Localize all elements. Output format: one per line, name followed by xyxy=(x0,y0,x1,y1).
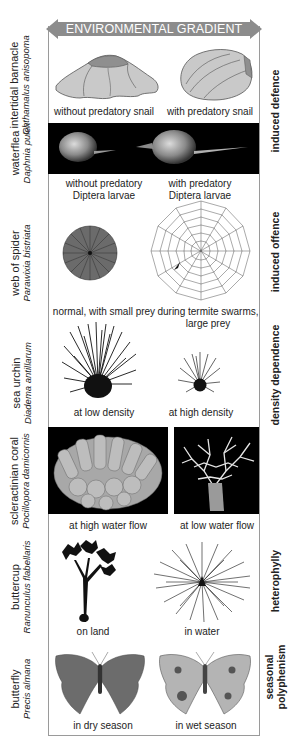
sea-urchin-high-density-illustration xyxy=(178,352,222,396)
caption-butterfly-dry-season: in dry season xyxy=(48,720,158,732)
category-heterophylly: heterophylly xyxy=(269,541,283,621)
coral-branching-illustration xyxy=(174,427,259,514)
common-name: butterfly xyxy=(9,659,21,719)
common-name: waterflea xyxy=(9,113,21,193)
common-name: web of spider xyxy=(9,213,21,313)
sea-urchin-low-density-illustration xyxy=(60,322,140,406)
caption-spider-large-prey: during termite swarms, large prey xyxy=(156,306,260,330)
barnacle-without-snail-illustration xyxy=(52,48,162,102)
caption-barnacle-with-snail: with predatory snail xyxy=(160,106,260,118)
scientific-name: Diadema antillarum xyxy=(22,338,34,428)
scientific-name: Daphnia pulex xyxy=(21,113,33,193)
scientific-name: Pocillopora damicornis xyxy=(20,428,32,534)
row-label-waterflea: waterflea Daphnia pulex xyxy=(9,113,35,193)
row-label-sea-urchin: sea urchin Diadema antillarum xyxy=(10,338,36,428)
caption-buttercup-land: on land xyxy=(48,626,138,638)
butterfly-wet-season-illustration xyxy=(156,646,254,718)
category-induced-defence: induced defence xyxy=(269,65,283,157)
scientific-name: Precis almana xyxy=(21,659,33,719)
caption-waterflea-without-predator: without predatory Diptera larvae xyxy=(48,178,160,202)
buttercup-land-illustration xyxy=(56,538,122,622)
caption-butterfly-wet-season: in wet season xyxy=(158,720,254,732)
common-name: buttercup xyxy=(9,535,21,639)
caption-coral-high-flow: at high water flow xyxy=(48,520,168,532)
scientific-name: Parawixia bistriata xyxy=(21,213,33,313)
caption-barnacle-without-snail: without predatory snail xyxy=(48,106,160,118)
common-name: sea urchin xyxy=(10,338,22,428)
row-label-coral: scleractinian coral Pocillopora damicorn… xyxy=(8,428,34,534)
caption-waterflea-with-predator: with predatory Diptera larvae xyxy=(160,178,240,202)
coral-low-flow-photo xyxy=(174,427,259,514)
butterfly-dry-season-illustration xyxy=(52,646,148,718)
row-label-butterfly: butterfly Precis almana xyxy=(9,659,35,719)
category-seasonal-polyphenism: seasonal polyphenism xyxy=(263,641,289,713)
row-label-buttercup: buttercup Ranunculus flabellaris xyxy=(9,535,35,639)
coral-compact-illustration xyxy=(48,427,168,514)
waterflea-without-predator-photo xyxy=(48,123,259,174)
environmental-gradient-label: ENVIRONMENTAL GRADIENT xyxy=(58,21,250,37)
scientific-name: Ranunculus flabellaris xyxy=(21,535,33,639)
spider-web-large-illustration xyxy=(150,200,252,302)
category-induced-offence: induced offence xyxy=(269,206,283,298)
caption-urchin-high-density: at high density xyxy=(154,407,248,419)
caption-coral-low-flow: at low water flow xyxy=(174,520,260,532)
caption-buttercup-water: in water xyxy=(160,626,244,638)
barnacle-with-snail-illustration xyxy=(174,44,256,102)
row-label-spider-web: web of spider Parawixia bistriata xyxy=(9,213,35,313)
buttercup-water-illustration xyxy=(152,540,252,622)
caption-spider-small-prey: normal, with small prey xyxy=(48,306,160,318)
category-density-dependence: density dependence xyxy=(269,313,283,437)
coral-high-flow-photo xyxy=(48,427,168,514)
caption-urchin-low-density: at low density xyxy=(48,407,160,419)
common-name: scleractinian coral xyxy=(8,428,20,534)
spider-web-small-illustration xyxy=(61,224,119,282)
waterflea-photo-panel xyxy=(48,123,259,174)
